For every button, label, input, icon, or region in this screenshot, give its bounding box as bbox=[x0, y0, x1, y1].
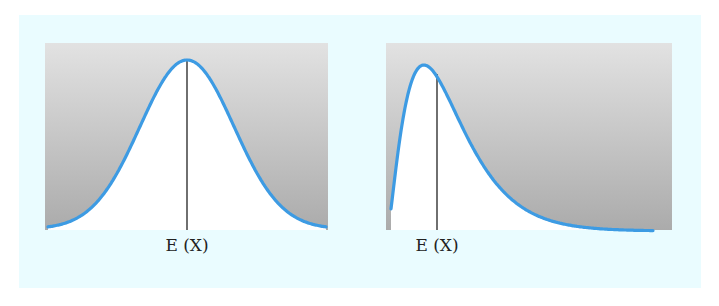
panel-symmetric: E (X) bbox=[45, 43, 328, 255]
panel-right-skewed: E (X) bbox=[386, 43, 672, 255]
mean-label: E (X) bbox=[415, 235, 458, 255]
distribution-figure: E (X) E (X) bbox=[0, 0, 719, 306]
mean-label: E (X) bbox=[165, 235, 208, 255]
